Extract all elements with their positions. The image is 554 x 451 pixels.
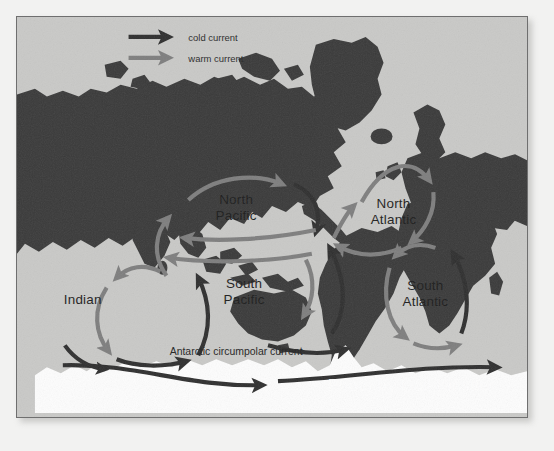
film-grain-overlay bbox=[17, 17, 527, 417]
screenshot-stage: North Pacific North Atlantic South Pacif… bbox=[0, 0, 554, 451]
map-canvas: North Pacific North Atlantic South Pacif… bbox=[17, 17, 527, 417]
ocean-currents-map: North Pacific North Atlantic South Pacif… bbox=[16, 16, 528, 418]
